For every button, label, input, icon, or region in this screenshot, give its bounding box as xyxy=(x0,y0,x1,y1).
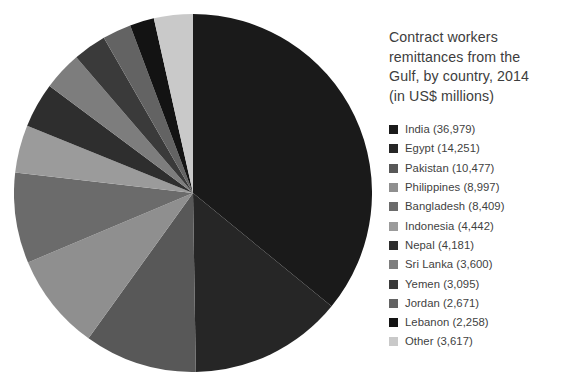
legend-swatch-icon xyxy=(389,260,398,269)
legend-item[interactable]: Indonesia (4,442) xyxy=(389,216,561,235)
legend-item-label: Nepal (4,181) xyxy=(405,239,474,252)
legend-item[interactable]: Lebanon (2,258) xyxy=(389,313,561,332)
legend-swatch-icon xyxy=(389,318,398,327)
legend-item[interactable]: Other (3,617) xyxy=(389,332,561,351)
pie-chart-figure: Contract workers remittances from the Gu… xyxy=(0,0,562,383)
legend-swatch-icon xyxy=(389,183,398,192)
legend-swatch-icon xyxy=(389,280,398,289)
legend-item-label: India (36,979) xyxy=(405,123,475,136)
legend-swatch-icon xyxy=(389,299,398,308)
legend-item-label: Egypt (14,251) xyxy=(405,142,480,155)
legend-item-label: Indonesia (4,442) xyxy=(405,220,494,233)
legend-item[interactable]: Jordan (2,671) xyxy=(389,294,561,313)
legend-item[interactable]: Bangladesh (8,409) xyxy=(389,197,561,216)
pie-slice-group xyxy=(14,14,372,372)
legend-item[interactable]: India (36,979) xyxy=(389,120,561,139)
legend-swatch-icon xyxy=(389,337,398,346)
legend-swatch-icon xyxy=(389,222,398,231)
legend-item-label: Other (3,617) xyxy=(405,335,473,348)
legend-item[interactable]: Pakistan (10,477) xyxy=(389,159,561,178)
legend-item-label: Bangladesh (8,409) xyxy=(405,200,505,213)
legend-item[interactable]: Yemen (3,095) xyxy=(389,274,561,293)
pie-chart-plot-area xyxy=(14,14,372,372)
legend-item-label: Pakistan (10,477) xyxy=(405,162,494,175)
legend-item-label: Philippines (8,997) xyxy=(405,181,500,194)
legend-item-label: Sri Lanka (3,600) xyxy=(405,258,493,271)
legend-item-label: Jordan (2,671) xyxy=(405,297,479,310)
legend-swatch-icon xyxy=(389,144,398,153)
legend-item-label: Lebanon (2,258) xyxy=(405,316,489,329)
legend-item[interactable]: Egypt (14,251) xyxy=(389,139,561,158)
chart-title: Contract workers remittances from the Gu… xyxy=(389,28,561,106)
legend-swatch-icon xyxy=(389,202,398,211)
legend-swatch-icon xyxy=(389,125,398,134)
legend-item[interactable]: Nepal (4,181) xyxy=(389,236,561,255)
legend-list: India (36,979)Egypt (14,251)Pakistan (10… xyxy=(389,120,561,352)
pie-chart-svg xyxy=(14,14,372,372)
legend-item[interactable]: Sri Lanka (3,600) xyxy=(389,255,561,274)
legend-item-label: Yemen (3,095) xyxy=(405,278,479,291)
chart-legend-panel: Contract workers remittances from the Gu… xyxy=(389,28,561,352)
legend-swatch-icon xyxy=(389,241,398,250)
legend-swatch-icon xyxy=(389,164,398,173)
legend-item[interactable]: Philippines (8,997) xyxy=(389,178,561,197)
